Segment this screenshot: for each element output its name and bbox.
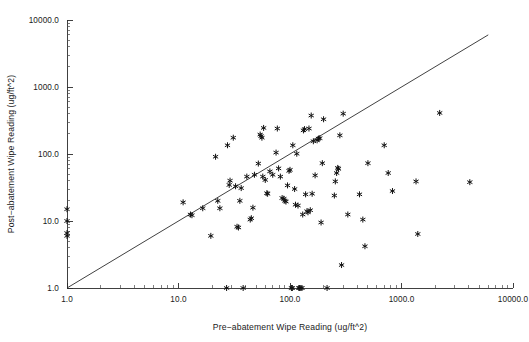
data-point-marker bbox=[290, 142, 295, 148]
data-point-marker bbox=[292, 186, 297, 192]
data-point-marker bbox=[256, 161, 261, 167]
y-axis-title: Post−abatement Wipe Reading (ug/ft^2) bbox=[6, 75, 16, 233]
data-point-marker bbox=[270, 172, 275, 178]
data-point-marker bbox=[339, 262, 344, 268]
data-point-marker bbox=[275, 126, 280, 132]
data-point-marker bbox=[200, 205, 205, 211]
x-axis-tick-label: 10.0 bbox=[170, 295, 187, 304]
data-point-marker bbox=[227, 182, 232, 188]
data-point-marker bbox=[357, 191, 362, 197]
data-point-marker bbox=[332, 193, 337, 199]
data-point-marker bbox=[231, 135, 236, 141]
data-point-marker bbox=[267, 168, 272, 174]
data-point-marker bbox=[239, 185, 244, 191]
data-point-marker bbox=[467, 179, 472, 185]
data-point-marker bbox=[360, 217, 365, 223]
data-point-marker bbox=[208, 233, 213, 239]
y-axis-tick-label: 10000.0 bbox=[29, 16, 60, 25]
data-point-marker bbox=[303, 191, 308, 197]
data-point-marker bbox=[390, 188, 395, 194]
data-point-marker bbox=[225, 142, 230, 148]
data-point-marker bbox=[306, 126, 311, 132]
data-point-marker bbox=[309, 113, 314, 119]
data-points bbox=[64, 110, 472, 291]
y-axis-tick-label: 100.0 bbox=[38, 150, 59, 159]
x-axis-tick-label: 1.0 bbox=[61, 295, 73, 304]
data-point-marker bbox=[233, 183, 238, 189]
data-point-marker bbox=[261, 125, 266, 131]
data-point-marker bbox=[250, 205, 255, 211]
scatter-plot-figure: 1.010.0100.01000.010000.01.010.0100.0100… bbox=[0, 0, 529, 342]
data-point-marker bbox=[437, 110, 442, 116]
y-axis-tick-label: 10.0 bbox=[43, 217, 60, 226]
data-point-marker bbox=[320, 160, 325, 166]
data-point-marker bbox=[318, 219, 323, 225]
data-point-marker bbox=[413, 178, 418, 184]
plot-canvas: 1.010.0100.01000.010000.01.010.0100.0100… bbox=[0, 0, 529, 342]
data-point-marker bbox=[278, 174, 283, 180]
data-point-marker bbox=[310, 191, 315, 197]
data-point-marker bbox=[276, 165, 281, 171]
data-point-marker bbox=[64, 206, 69, 212]
data-point-marker bbox=[365, 160, 370, 166]
data-point-marker bbox=[337, 132, 342, 138]
data-point-marker bbox=[321, 116, 326, 122]
data-point-marker bbox=[227, 178, 232, 184]
data-point-marker bbox=[382, 142, 387, 148]
data-point-marker bbox=[263, 177, 268, 183]
data-point-marker bbox=[285, 182, 290, 188]
data-point-marker bbox=[273, 150, 278, 156]
data-point-marker bbox=[294, 151, 299, 157]
data-point-marker bbox=[386, 170, 391, 176]
x-axis-title: Pre−abatement Wipe Reading (ug/ft^2) bbox=[213, 322, 367, 332]
identity-reference-line bbox=[67, 35, 488, 288]
data-point-marker bbox=[313, 172, 318, 178]
y-axis-tick-label: 1.0 bbox=[47, 284, 59, 293]
data-point-marker bbox=[341, 111, 346, 117]
x-axis-tick-label: 1000.0 bbox=[389, 295, 415, 304]
y-axis-tick-label: 1000.0 bbox=[33, 83, 59, 92]
data-point-marker bbox=[213, 154, 218, 160]
axis-labels: 1.010.0100.01000.010000.01.010.0100.0100… bbox=[6, 16, 528, 332]
x-axis-tick-label: 10000.0 bbox=[498, 295, 529, 304]
data-point-marker bbox=[237, 198, 242, 204]
identity-reference-line bbox=[67, 35, 488, 288]
data-point-marker bbox=[181, 199, 186, 205]
data-point-marker bbox=[333, 178, 338, 184]
x-axis-tick-label: 100.0 bbox=[280, 295, 301, 304]
data-point-marker bbox=[217, 205, 222, 211]
data-point-marker bbox=[415, 231, 420, 237]
data-point-marker bbox=[362, 243, 367, 249]
data-point-marker bbox=[345, 212, 350, 218]
